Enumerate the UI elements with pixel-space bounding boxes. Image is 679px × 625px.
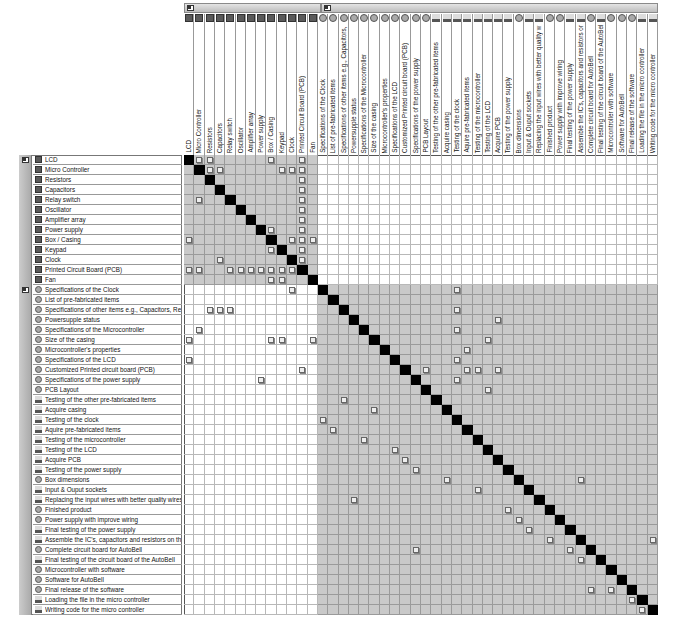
matrix-cell[interactable] — [308, 435, 318, 445]
matrix-cell[interactable] — [225, 235, 235, 245]
matrix-cell[interactable] — [339, 415, 349, 425]
matrix-cell[interactable] — [318, 265, 328, 275]
matrix-cell[interactable] — [452, 305, 462, 315]
matrix-cell[interactable] — [380, 335, 390, 345]
matrix-cell[interactable] — [431, 605, 441, 615]
matrix-cell[interactable] — [596, 435, 606, 445]
matrix-cell[interactable] — [627, 305, 637, 315]
matrix-cell[interactable] — [349, 525, 359, 535]
matrix-cell[interactable] — [318, 425, 328, 435]
matrix-cell[interactable] — [493, 395, 503, 405]
matrix-cell[interactable] — [400, 165, 410, 175]
dependency-mark[interactable] — [268, 157, 274, 163]
matrix-cell[interactable] — [339, 595, 349, 605]
matrix-cell[interactable] — [637, 265, 647, 275]
matrix-cell[interactable] — [225, 385, 235, 395]
matrix-cell[interactable] — [596, 475, 606, 485]
matrix-cell[interactable] — [473, 335, 483, 345]
matrix-cell[interactable] — [349, 435, 359, 445]
matrix-cell[interactable] — [586, 355, 596, 365]
matrix-cell[interactable] — [246, 495, 256, 505]
matrix-cell[interactable] — [297, 325, 307, 335]
matrix-cell[interactable] — [215, 175, 225, 185]
matrix-cell[interactable] — [369, 445, 379, 455]
matrix-cell[interactable] — [586, 535, 596, 545]
matrix-cell[interactable] — [369, 395, 379, 405]
matrix-cell[interactable] — [400, 305, 410, 315]
matrix-cell[interactable] — [421, 535, 431, 545]
matrix-cell[interactable] — [452, 225, 462, 235]
matrix-cell[interactable] — [442, 445, 452, 455]
matrix-cell[interactable] — [545, 565, 555, 575]
matrix-cell[interactable] — [318, 415, 328, 425]
matrix-cell[interactable] — [390, 305, 400, 315]
matrix-cell[interactable] — [442, 225, 452, 235]
matrix-cell[interactable] — [194, 535, 204, 545]
matrix-cell[interactable] — [380, 325, 390, 335]
matrix-cell[interactable] — [380, 475, 390, 485]
matrix-cell[interactable] — [503, 575, 513, 585]
column-header[interactable]: Acquire PCB — [493, 14, 503, 155]
matrix-cell[interactable] — [225, 355, 235, 365]
matrix-cell[interactable] — [534, 295, 544, 305]
matrix-cell[interactable] — [483, 375, 493, 385]
dependency-mark[interactable] — [186, 337, 192, 343]
matrix-cell[interactable] — [586, 285, 596, 295]
matrix-cell[interactable] — [277, 535, 287, 545]
matrix-cell[interactable] — [225, 375, 235, 385]
matrix-cell[interactable] — [421, 215, 431, 225]
matrix-cell[interactable] — [369, 325, 379, 335]
diagonal-cell[interactable] — [627, 585, 637, 595]
matrix-cell[interactable] — [524, 595, 534, 605]
matrix-cell[interactable] — [524, 325, 534, 335]
matrix-cell[interactable] — [225, 325, 235, 335]
matrix-cell[interactable] — [390, 345, 400, 355]
matrix-cell[interactable] — [596, 245, 606, 255]
matrix-cell[interactable] — [524, 515, 534, 525]
dependency-mark[interactable] — [454, 357, 460, 363]
matrix-cell[interactable] — [277, 365, 287, 375]
matrix-cell[interactable] — [359, 525, 369, 535]
matrix-cell[interactable] — [287, 175, 297, 185]
matrix-cell[interactable] — [339, 445, 349, 455]
matrix-cell[interactable] — [266, 605, 276, 615]
matrix-cell[interactable] — [277, 445, 287, 455]
matrix-cell[interactable] — [421, 245, 431, 255]
matrix-cell[interactable] — [236, 495, 246, 505]
matrix-cell[interactable] — [349, 415, 359, 425]
matrix-cell[interactable] — [411, 245, 421, 255]
matrix-cell[interactable] — [586, 235, 596, 245]
matrix-cell[interactable] — [503, 345, 513, 355]
matrix-cell[interactable] — [545, 575, 555, 585]
matrix-cell[interactable] — [637, 215, 647, 225]
matrix-cell[interactable] — [277, 525, 287, 535]
matrix-cell[interactable] — [576, 225, 586, 235]
diagonal-cell[interactable] — [431, 395, 441, 405]
matrix-cell[interactable] — [442, 395, 452, 405]
dependency-mark[interactable] — [227, 267, 233, 273]
matrix-cell[interactable] — [349, 195, 359, 205]
matrix-cell[interactable] — [328, 605, 338, 615]
matrix-cell[interactable] — [514, 545, 524, 555]
matrix-cell[interactable] — [400, 225, 410, 235]
matrix-cell[interactable] — [297, 435, 307, 445]
diagonal-cell[interactable] — [380, 345, 390, 355]
matrix-cell[interactable] — [617, 415, 627, 425]
column-header[interactable]: LCD — [184, 14, 194, 155]
matrix-cell[interactable] — [442, 345, 452, 355]
row-header[interactable]: LCD — [33, 155, 182, 165]
matrix-cell[interactable] — [586, 495, 596, 505]
matrix-cell[interactable] — [390, 525, 400, 535]
dependency-mark[interactable] — [299, 177, 305, 183]
column-header[interactable]: Final release of the software — [627, 14, 637, 155]
matrix-cell[interactable] — [339, 335, 349, 345]
matrix-cell[interactable] — [411, 475, 421, 485]
matrix-cell[interactable] — [648, 525, 658, 535]
matrix-cell[interactable] — [205, 215, 215, 225]
matrix-cell[interactable] — [359, 315, 369, 325]
column-header[interactable]: Loading the file in the micro controller — [637, 14, 647, 155]
matrix-cell[interactable] — [545, 365, 555, 375]
matrix-cell[interactable] — [390, 475, 400, 485]
matrix-cell[interactable] — [452, 565, 462, 575]
matrix-cell[interactable] — [225, 555, 235, 565]
